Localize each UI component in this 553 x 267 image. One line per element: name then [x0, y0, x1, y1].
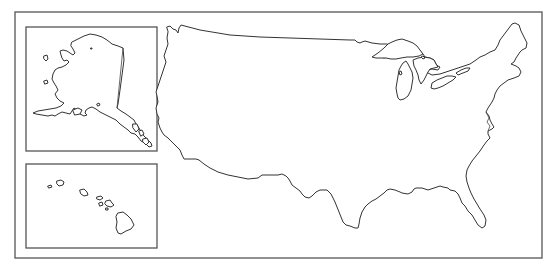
- map-canvas: [0, 0, 553, 267]
- contiguous-us-shape: [117, 23, 527, 228]
- us-outline-map: Outline map of the United States Alaska …: [0, 0, 553, 267]
- hawaii-shape: [48, 180, 134, 234]
- alaska-shape: [33, 34, 152, 147]
- lake-small-shape: [399, 71, 402, 75]
- hawaii-inset-frame: [26, 164, 157, 248]
